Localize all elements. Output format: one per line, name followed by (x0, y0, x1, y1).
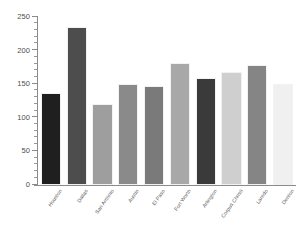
bar (92, 104, 112, 185)
x-tick-label: Dallas (75, 188, 88, 203)
x-axis-origin-tick (34, 185, 37, 186)
x-axis-category-labels: HoustonDallasSan AntonioAustinEl PasoFor… (38, 186, 296, 229)
bar (221, 72, 241, 185)
x-tick-label: Arlington (201, 188, 218, 209)
x-tick-label: El Paso (151, 188, 166, 206)
bar (273, 84, 293, 185)
bars-container (38, 17, 296, 185)
y-tick-label: 0 (26, 180, 30, 189)
x-tick-label: Houston (47, 188, 63, 208)
bar (196, 78, 216, 185)
x-tick-label: Corpus Christi (219, 188, 243, 219)
x-tick-label: Austin (127, 188, 140, 203)
bar (144, 86, 164, 185)
x-tick-label: Fort Worth (173, 188, 192, 212)
bar (41, 93, 61, 185)
y-tick-label: 200 (17, 45, 30, 54)
bar-chart: 050100150200250 HoustonDallasSan Antonio… (0, 0, 305, 229)
y-tick-label: 150 (17, 79, 30, 88)
x-tick-label: Denton (280, 188, 295, 205)
x-tick-label: San Antonio (93, 188, 114, 215)
y-tick-label: 50 (21, 146, 30, 155)
x-tick-label: Laredo (255, 188, 269, 205)
bar (67, 27, 87, 185)
bar (170, 63, 190, 185)
bar (118, 84, 138, 185)
y-axis-tick-labels: 050100150200250 (0, 16, 38, 186)
y-tick-label: 100 (17, 112, 30, 121)
bar (247, 65, 267, 185)
y-tick-label: 250 (17, 12, 30, 21)
